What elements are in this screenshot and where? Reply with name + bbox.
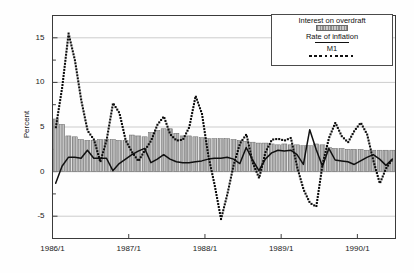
x-tick-label: 1988/1 (182, 244, 228, 253)
y-tick-label: 10 (23, 77, 45, 86)
legend-label-m1: M1 (272, 44, 392, 53)
x-tick-label: 1990/1 (334, 244, 380, 253)
legend-label-interest-on-overdraft: Interest on overdraft (272, 16, 392, 25)
legend-entry-rate-of-inflation: Rate of inflation (272, 32, 392, 43)
y-tick-label: 15 (23, 33, 45, 42)
legend-entry-m1: M1 (272, 44, 392, 57)
x-tick-label: 1987/1 (106, 244, 152, 253)
legend-swatch-dotted-line (309, 55, 355, 57)
chart-legend: Interest on overdraft Rate of inflation … (271, 14, 393, 66)
y-tick-label: 5 (23, 122, 45, 131)
y-tick-label: 0 (23, 167, 45, 176)
x-tick-label: 1989/1 (258, 244, 304, 253)
legend-entry-interest-on-overdraft: Interest on overdraft (272, 16, 392, 31)
y-tick-label: -5 (23, 211, 45, 220)
legend-swatch-solid-line (315, 42, 349, 43)
legend-label-rate-of-inflation: Rate of inflation (272, 32, 392, 41)
legend-swatch-bar (316, 25, 348, 31)
x-tick-label: 1986/1 (30, 244, 76, 253)
chart-figure: Percent 151050-5 1986/11987/11988/11989/… (0, 0, 414, 273)
